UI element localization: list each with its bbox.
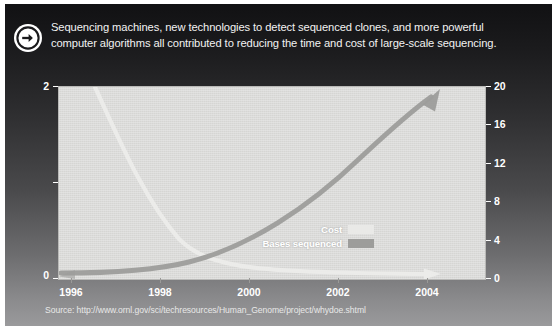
header-caption: Sequencing machines, new technologies to… <box>51 20 531 51</box>
header-caption-line-2: computer algorithms all contributed to r… <box>51 36 531 52</box>
x-tick-mark-1996 <box>71 278 72 283</box>
y-tick-right-20: 20 <box>494 80 524 92</box>
legend-swatch-bases-sequenced <box>348 239 374 248</box>
plot-area: Cost Bases sequenced <box>58 86 486 280</box>
x-tick-mark-2000 <box>249 278 250 283</box>
x-tick-mark-2002 <box>338 278 339 283</box>
x-tick-mark-2004 <box>427 278 428 283</box>
y-tick-mark-right-8 <box>486 201 491 202</box>
y-tick-mark-right-12 <box>486 163 491 164</box>
legend-item-cost: Cost <box>224 224 374 235</box>
y-tick-right-16: 16 <box>494 118 524 130</box>
x-tick-mark-1998 <box>160 278 161 283</box>
y-tick-right-4: 4 <box>494 234 524 246</box>
y-tick-mark-right-4 <box>486 240 491 241</box>
legend-item-bases-sequenced: Bases sequenced <box>224 238 374 249</box>
y-tick-right-12: 12 <box>494 157 524 169</box>
x-tick-label-1998: 1998 <box>137 286 183 298</box>
y-tick-mark-right-0 <box>486 278 491 279</box>
legend-swatch-cost <box>348 225 374 234</box>
header-caption-line-1: Sequencing machines, new technologies to… <box>51 20 531 36</box>
y-tick-right-8: 8 <box>494 195 524 207</box>
y-tick-left-2: 2 <box>13 80 49 92</box>
y-tick-right-0: 0 <box>494 272 524 284</box>
slide-canvas: Sequencing machines, new technologies to… <box>5 4 552 326</box>
legend-label-bases-sequenced: Bases sequenced <box>262 238 342 249</box>
x-tick-label-2004: 2004 <box>404 286 450 298</box>
header-banner: Sequencing machines, new technologies to… <box>5 4 552 66</box>
y-tick-left-0: 0 <box>13 269 49 281</box>
x-tick-label-2000: 2000 <box>226 286 272 298</box>
x-tick-label-2002: 2002 <box>315 286 361 298</box>
y-tick-mark-right-16 <box>486 124 491 125</box>
x-tick-label-1996: 1996 <box>48 286 94 298</box>
legend-label-cost: Cost <box>321 224 342 235</box>
y-tick-mark-right-20 <box>486 86 491 87</box>
chart-legend: Cost Bases sequenced <box>224 224 374 252</box>
source-citation: Source: http://www.ornl.gov/sci/techreso… <box>45 305 366 315</box>
circle-arrow-right-icon <box>14 24 42 52</box>
